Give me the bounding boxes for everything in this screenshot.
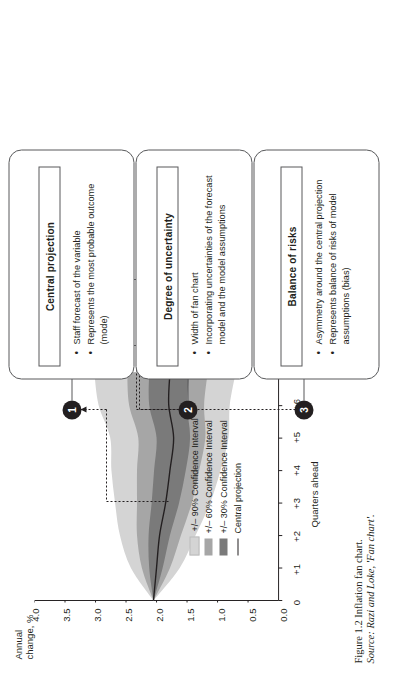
legend-item-90: +/– 90% Confidence Interval <box>188 418 199 555</box>
figure-source: Source: Razi and Loke, 'Fan chart'. <box>364 514 375 663</box>
callout-2-number: 2 <box>178 400 197 419</box>
callout-2-title: Degree of uncertainty <box>156 166 178 366</box>
legend-item-60: +/– 60% Confidence Interval <box>203 418 214 555</box>
legend-swatch-90 <box>189 536 199 555</box>
x-tick-0: 0 <box>290 593 301 611</box>
legend-swatch-central <box>237 538 238 555</box>
legend-item-30: +/– 30% Confidence Interval <box>217 418 228 555</box>
y-tick-0.0: 0.0 <box>277 608 288 634</box>
callout-1-bullet-0: Staff forecast of the variable <box>70 165 82 344</box>
callout-2-bullet-1: Incorporating uncertainties of the forec… <box>202 165 227 344</box>
figure-page: Annual change, % 4.0 3.5 3.0 2.5 2.0 1.5… <box>0 0 398 677</box>
figure-stage: Annual change, % 4.0 3.5 3.0 2.5 2.0 1.5… <box>0 0 398 677</box>
y-tick-1.5: 1.5 <box>184 608 195 634</box>
callout-1-number: 1 <box>62 400 81 419</box>
legend-item-central: Central projection <box>232 418 243 555</box>
y-tick-4.0: 4.0 <box>29 608 40 634</box>
y-tick-2.5: 2.5 <box>122 608 133 634</box>
x-tick-+1: +1 <box>290 560 301 578</box>
x-tick-+4: +4 <box>290 461 301 479</box>
callout-3-title: Balance of risks <box>280 166 302 366</box>
x-tick-+5: +5 <box>290 428 301 446</box>
callout-3-bullet-0: Asymmetry around the central projection <box>312 165 324 344</box>
callout-2-bullet-0: Width of fan chart <box>188 165 200 344</box>
figure-caption: Figure 1.2 Inflation fan chart. <box>352 333 363 663</box>
y-tick-0.5: 0.5 <box>246 608 257 634</box>
x-axis-title: Quarters ahead <box>308 461 319 527</box>
legend-label-central: Central projection <box>232 462 242 533</box>
callout-2-bullets: Width of fan chart Incorporating uncerta… <box>188 165 229 355</box>
y-tick-3.5: 3.5 <box>60 608 71 634</box>
legend-label-60: +/– 60% Confidence Interval <box>203 420 213 533</box>
legend-swatch-60 <box>204 538 212 555</box>
x-tick-+3: +3 <box>290 494 301 512</box>
callout-3-bullets: Asymmetry around the central projection … <box>312 165 353 355</box>
legend-label-30: +/– 30% Confidence Interval <box>218 420 228 533</box>
callout-1-bullets: Staff forecast of the variable Represent… <box>70 165 111 355</box>
callout-1-title: Central projection <box>38 166 60 366</box>
legend-label-90: +/– 90% Confidence Interval <box>189 418 199 531</box>
y-tick-2.0: 2.0 <box>153 608 164 634</box>
legend-swatch-30 <box>219 538 227 555</box>
callout-1-bullet-1: Represents the most probable outcome (mo… <box>84 165 109 344</box>
callout-3-number: 3 <box>294 400 313 419</box>
x-tick-+2: +2 <box>290 527 301 545</box>
callout-3-bullet-1: Represents balance of risks of model ass… <box>326 165 351 344</box>
chart-legend: +/– 90% Confidence Interval +/– 60% Conf… <box>188 418 246 555</box>
y-tick-3.0: 3.0 <box>91 608 102 634</box>
y-tick-1.0: 1.0 <box>215 608 226 634</box>
